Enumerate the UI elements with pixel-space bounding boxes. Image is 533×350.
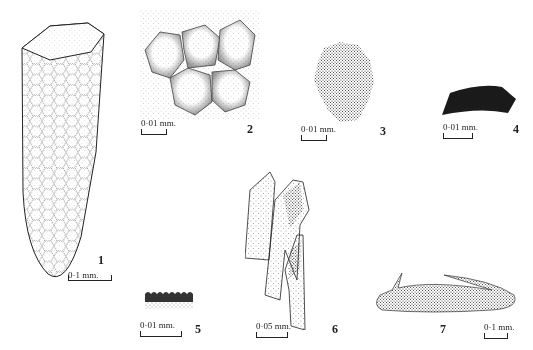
scale-bar [484,333,508,339]
figure-5-drawing [143,290,195,310]
figure-2-drawing [140,10,260,120]
figure-6 [245,170,340,330]
figure-3-scale-text: 0·01 mm. [301,124,336,134]
figure-4-number: 4 [513,122,519,137]
figure-2-scale-text: 0·01 mm. [141,118,176,128]
figure-1 [6,12,106,292]
scale-bar [140,331,182,337]
figure-3-drawing [310,40,380,125]
figure-1-number: 1 [98,253,104,268]
figure-1-drawing [6,12,106,292]
scale-bar [68,275,112,281]
figure-4-drawing [440,85,520,120]
figure-1-scale: 0·1 mm. [68,270,99,280]
figure-7-number: 7 [440,322,446,337]
scale-bar [443,133,473,139]
scale-bar [141,129,167,135]
figure-3-scale: 0·01 mm. [301,124,336,134]
figure-6-scale: 0·05 mm. [256,321,291,331]
figure-7 [372,270,522,315]
figure-3-number: 3 [380,124,386,139]
figure-5-scale: 0·01 mm. [140,320,175,330]
figure-4 [440,85,520,120]
figure-5-number: 5 [195,322,201,337]
figure-6-scale-text: 0·05 mm. [256,321,291,331]
figure-7-drawing [372,270,522,315]
figure-2 [140,10,260,120]
figure-4-scale: 0·01 mm. [443,122,478,132]
figure-4-scale-text: 0·01 mm. [443,122,478,132]
figure-2-number: 2 [247,122,253,137]
figure-5-scale-text: 0·01 mm. [140,320,175,330]
figure-7-scale: 0·1 mm. [484,322,515,332]
figure-6-number: 6 [332,322,338,337]
figure-3 [310,40,380,125]
figure-6-drawing [245,170,340,330]
scale-bar [301,135,327,141]
figure-7-scale-text: 0·1 mm. [484,322,515,332]
figure-2-scale: 0·01 mm. [141,118,176,128]
figure-5 [143,290,195,310]
scale-bar [256,332,288,338]
